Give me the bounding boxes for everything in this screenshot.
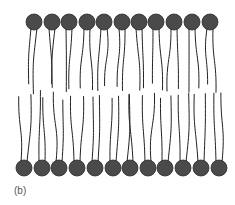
lipid-head (140, 160, 156, 176)
lipid-tail (213, 28, 216, 93)
lipid-tail (53, 92, 57, 162)
lipid-tail (70, 96, 74, 162)
lipid-head (79, 14, 95, 30)
lipid-head (148, 14, 164, 30)
lipid-head (114, 14, 130, 30)
lipid-tail (69, 28, 72, 89)
lipid-tail (80, 96, 84, 162)
lipid-tail (98, 28, 101, 91)
lipid-tail (160, 98, 162, 162)
lipid-tail (105, 28, 108, 86)
lipid-tail (168, 95, 171, 162)
lipid-tail (136, 28, 140, 90)
figure-caption: (b) (14, 185, 26, 196)
lipid-tail (159, 28, 163, 90)
lipid-head (16, 160, 32, 176)
lipid-head (175, 160, 191, 176)
lipid-tail (152, 28, 153, 84)
lipid-head (122, 160, 138, 176)
lipid-tail (178, 95, 180, 162)
lipid-head (51, 160, 67, 176)
lipid-head (157, 160, 173, 176)
lipid-tail (214, 93, 216, 162)
lipid-tail (142, 95, 145, 162)
lipid-tail (110, 98, 112, 162)
hydrophobic-tails (19, 28, 224, 162)
lipid-head (193, 160, 209, 176)
lipid-head (87, 160, 103, 176)
lipid-tail (49, 28, 52, 84)
lipid-tail (28, 28, 31, 84)
lipid-tail (43, 97, 45, 162)
lipid-tail (27, 94, 31, 162)
lipid-tail (90, 28, 93, 90)
lipid-tail (194, 94, 198, 162)
lipid-head (34, 160, 50, 176)
lipid-tail (116, 96, 119, 162)
lipid-tail (117, 28, 120, 87)
lipid-tail (62, 100, 63, 162)
lipid-tail (92, 97, 93, 162)
lipid-bilayer-diagram (0, 0, 235, 205)
lipid-head (61, 14, 77, 30)
lipid-head (69, 160, 85, 176)
lipid-head (105, 160, 121, 176)
lipid-tail (195, 28, 199, 88)
lipid-tail (98, 95, 100, 162)
lipid-head (131, 14, 147, 30)
lipid-tail (221, 93, 223, 162)
lipid-tail (52, 28, 55, 88)
lipid-head (44, 14, 60, 30)
lipid-tail (33, 28, 37, 94)
lipid-head (202, 14, 218, 30)
lipid-tail (177, 28, 178, 89)
lipid-tail (142, 28, 144, 88)
lipid-tail (150, 93, 154, 162)
lipid-head (211, 160, 227, 176)
lipid-tail (122, 28, 125, 91)
lipid-tail (205, 28, 207, 84)
lipid-head (166, 14, 182, 30)
lipid-tail (80, 28, 84, 88)
lipid-tail (186, 93, 189, 162)
lipid-head (26, 14, 42, 30)
lipid-tail (204, 93, 205, 162)
lipid-tail (39, 90, 41, 162)
lipid-head (96, 14, 112, 30)
lipid-head (184, 14, 200, 30)
lipid-tail (19, 96, 22, 162)
lipid-tail (167, 28, 171, 91)
